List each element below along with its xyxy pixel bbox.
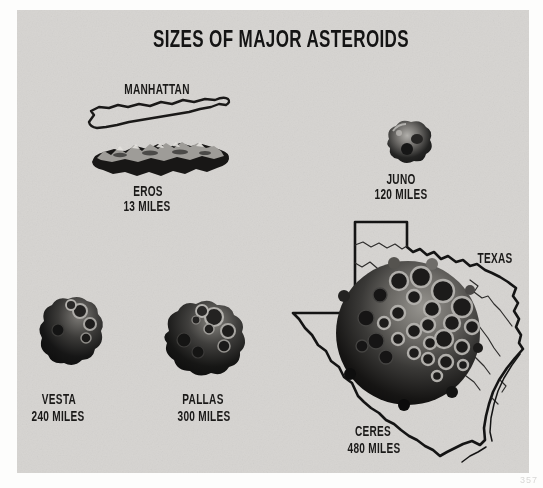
panel-background: [17, 10, 529, 473]
page-number: 357: [520, 475, 538, 485]
eros-name-label: EROS: [127, 184, 168, 198]
eros-size-label: 13 MILES: [114, 199, 179, 213]
juno-size-label: 120 MILES: [364, 187, 438, 201]
ceres-size-label: 480 MILES: [337, 441, 411, 455]
vesta-name-label: VESTA: [35, 392, 83, 406]
juno-name-label: JUNO: [381, 172, 422, 186]
ceres-name-label: CERES: [348, 424, 398, 438]
vesta-size-label: 240 MILES: [21, 409, 95, 423]
pallas-name-label: PALLAS: [174, 392, 231, 406]
texas-label: TEXAS: [471, 251, 520, 265]
pallas-size-label: 300 MILES: [167, 409, 241, 423]
figure-title-text: SIZES OF MAJOR ASTEROIDS: [153, 28, 409, 51]
manhattan-label: MANHATTAN: [112, 82, 203, 96]
book-figure: SIZES OF MAJOR ASTEROIDS MANHATTAN EROS …: [0, 0, 543, 488]
figure-title: SIZES OF MAJOR ASTEROIDS: [108, 28, 454, 51]
